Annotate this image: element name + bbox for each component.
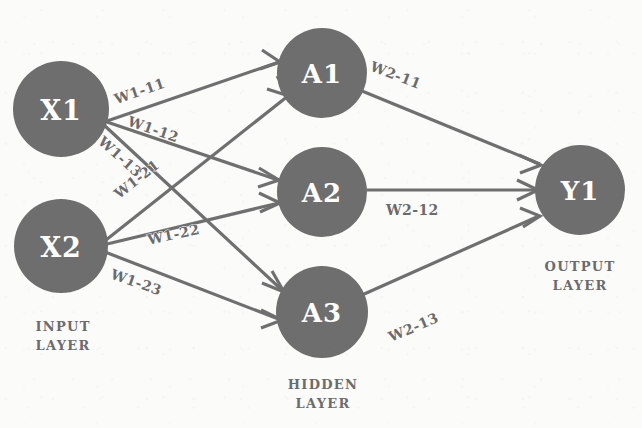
- edge-group-layer2: [362, 91, 541, 295]
- edge-a3-y1: [362, 208, 540, 295]
- node-group-output: Y1: [535, 145, 625, 235]
- neural-network-diagram: X1 X2 A1 A2 A3 Y1 W1-11 W1-12 W1-13 W1-2…: [0, 0, 642, 428]
- arrowhead-a1-y1: [519, 155, 541, 173]
- node-label-x2: X2: [40, 232, 82, 263]
- node-group-hidden: A1 A2 A3: [276, 28, 368, 358]
- node-label-a3: A3: [301, 298, 342, 328]
- edge-line-a1-y1: [362, 91, 540, 164]
- edge-a1-y1: [362, 91, 541, 173]
- node-label-x1: X1: [40, 95, 82, 126]
- caption-output-layer: OUTPUT LAYER: [524, 258, 636, 296]
- node-label-a1: A1: [301, 59, 342, 89]
- caption-input-layer: INPUT LAYER: [16, 318, 110, 356]
- arrowhead-x2-a2: [259, 193, 280, 212]
- network-canvas: X1 X2 A1 A2 A3 Y1: [0, 0, 642, 428]
- caption-hidden-layer: HIDDEN LAYER: [270, 376, 376, 414]
- edge-a2-y1: [367, 180, 538, 200]
- node-group-input: X1 X2: [13, 61, 109, 293]
- node-label-a2: A2: [301, 178, 342, 208]
- weight-label-w2-12: W2-12: [386, 202, 439, 218]
- edge-line-a3-y1: [362, 216, 539, 295]
- node-label-y1: Y1: [560, 176, 600, 206]
